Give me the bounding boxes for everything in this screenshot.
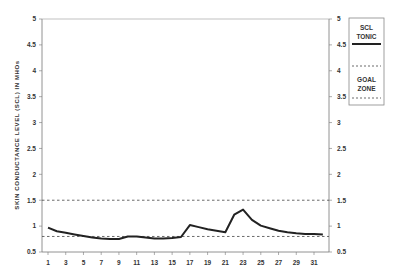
- x-tick-label: 9: [117, 259, 121, 266]
- legend-goal-label-2: ZONE: [357, 85, 376, 92]
- y-tick-label-right: 0.5: [337, 248, 346, 255]
- x-tick-label: 27: [275, 259, 283, 266]
- y-tick-label-right: 4: [337, 67, 341, 74]
- y-tick-label: 4: [32, 67, 36, 74]
- y-tick-label-right: 1: [337, 222, 341, 229]
- y-tick-label-right: 2.5: [337, 145, 346, 152]
- y-tick-label: 3: [32, 119, 36, 126]
- scl-line-chart: 0.511.522.533.544.55 0.511.522.533.544.5…: [0, 0, 402, 277]
- y-tick-label-right: 1.5: [337, 197, 346, 204]
- y-axis-left-ticks: 0.511.522.533.544.55: [27, 15, 42, 255]
- y-tick-label: 3.5: [27, 93, 36, 100]
- plot-axes: [42, 19, 329, 252]
- y-tick-label: 4.5: [27, 41, 36, 48]
- x-tick-label: 25: [257, 259, 265, 266]
- legend-scl-label-1: SCL: [360, 24, 373, 31]
- x-tick-label: 29: [293, 259, 301, 266]
- x-tick-label: 13: [151, 259, 159, 266]
- legend: SCL TONIC GOAL ZONE: [349, 18, 384, 105]
- y-tick-label: 1.5: [27, 197, 36, 204]
- x-tick-label: 5: [82, 259, 86, 266]
- x-tick-label: 17: [186, 259, 194, 266]
- y-tick-label-right: 4.5: [337, 41, 346, 48]
- x-tick-label: 1: [46, 259, 50, 266]
- y-axis-right-ticks: 0.511.522.533.544.55: [329, 15, 346, 255]
- y-axis-label: SKIN CONDUCTANCE LEVEL (SCL) IN MHOs: [14, 60, 20, 209]
- x-tick-label: 23: [239, 259, 247, 266]
- y-tick-label: 2.5: [27, 145, 36, 152]
- x-axis-ticks: 135791113151719212325272931: [46, 252, 323, 266]
- y-tick-label-right: 3.5: [337, 93, 346, 100]
- scl-tonic-line: [48, 210, 323, 240]
- scl-tonic-series: [48, 210, 323, 240]
- y-tick-label-right: 3: [337, 119, 341, 126]
- legend-goal-label-1: GOAL: [357, 76, 376, 83]
- x-tick-label: 11: [133, 259, 140, 266]
- y-tick-label: 0.5: [27, 248, 36, 255]
- legend-scl-label-2: TONIC: [356, 33, 376, 40]
- x-tick-label: 31: [310, 259, 318, 266]
- x-tick-label: 21: [222, 259, 230, 266]
- y-tick-label-right: 2: [337, 171, 341, 178]
- y-tick-label: 2: [32, 171, 36, 178]
- x-tick-label: 19: [204, 259, 212, 266]
- y-tick-label: 1: [32, 222, 36, 229]
- y-tick-label: 5: [32, 15, 36, 22]
- y-tick-label-right: 5: [337, 15, 341, 22]
- x-tick-label: 7: [99, 259, 103, 266]
- x-tick-label: 3: [64, 259, 68, 266]
- x-tick-label: 15: [169, 259, 177, 266]
